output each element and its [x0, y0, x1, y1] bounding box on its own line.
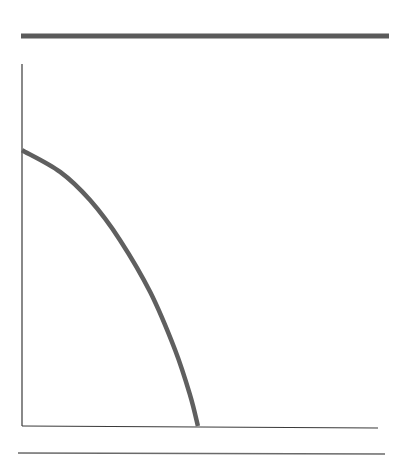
chart — [0, 0, 404, 456]
bottom-rule — [18, 453, 385, 454]
x-axis — [22, 426, 378, 428]
frontier-curve — [22, 150, 198, 426]
